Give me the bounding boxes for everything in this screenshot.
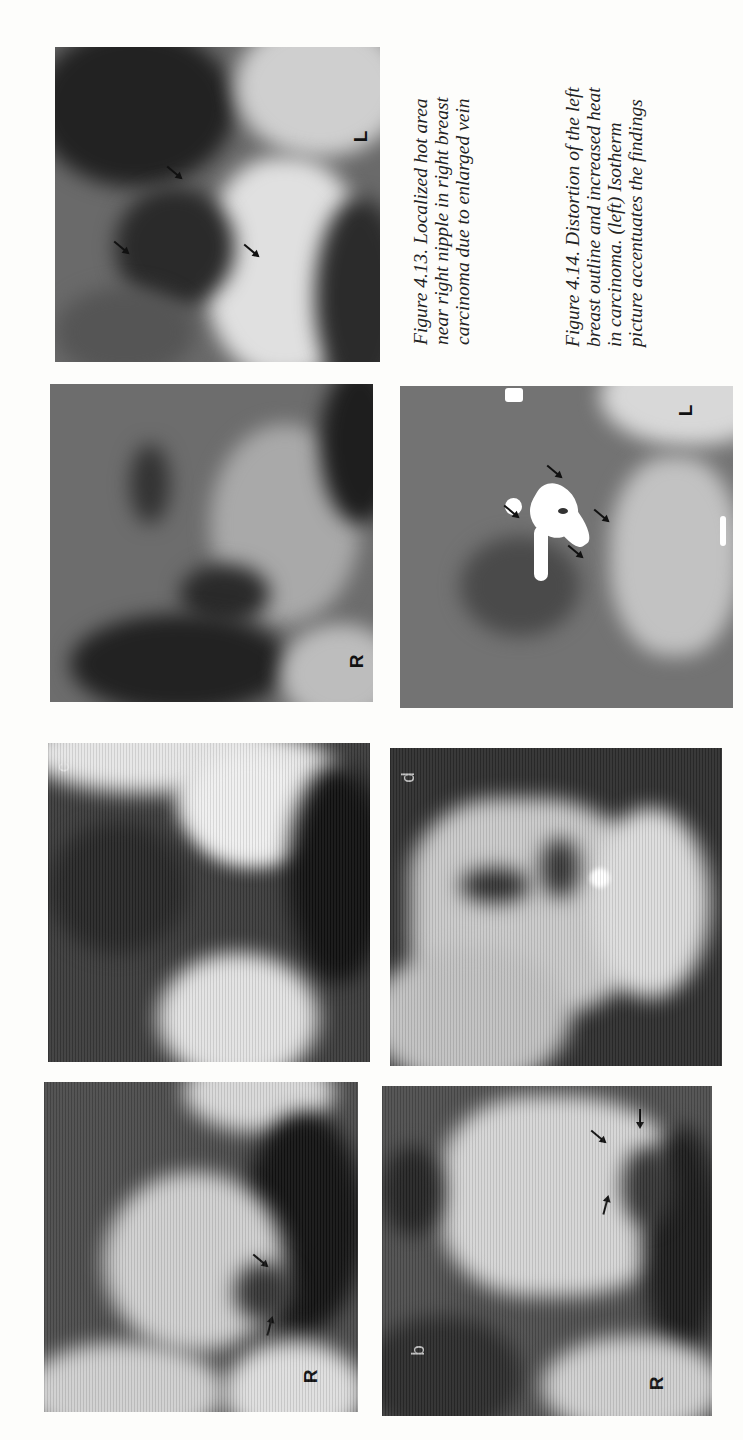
thermogram-panel-c: c: [48, 743, 370, 1062]
thermogram-panel-a: R: [44, 1082, 358, 1412]
caption-line: Figure 4.14. Distortion of the left: [562, 57, 583, 347]
caption-line: carcinoma due to enlarged vein: [452, 55, 473, 345]
thermogram-panel-b: b R: [382, 1086, 712, 1416]
caption-line: breast outline and increased heat: [583, 57, 604, 347]
caption-line: near right nipple in right breast: [431, 55, 452, 345]
side-marker-l: L: [351, 131, 370, 143]
arrow-icon: [594, 509, 609, 522]
arrow-icon: [266, 1318, 273, 1336]
arrow-icon: [313, 1230, 315, 1248]
arrow-icon: [639, 1109, 641, 1127]
thermogram-panel-d: d: [390, 748, 722, 1066]
panel-letter-d: d: [398, 772, 417, 783]
panel-letter-b: b: [408, 1345, 427, 1356]
caption-line: picture accentuates the findings: [625, 57, 646, 347]
caption-line: in carcinoma. (left) Isotherm: [604, 57, 625, 347]
figure-4-14-left-thermogram: R: [50, 384, 373, 702]
side-marker-r: R: [647, 1377, 666, 1391]
arrow-icon: [547, 465, 562, 478]
side-marker-r: R: [347, 655, 366, 669]
side-marker-l: L: [676, 405, 695, 417]
figure-4-13-caption: Figure 4.13. Localized hot area near rig…: [410, 55, 473, 345]
figure-4-13-thermogram: L: [55, 47, 380, 362]
side-marker-r: R: [301, 1370, 320, 1384]
figure-4-14-isotherm: L: [400, 386, 733, 708]
caption-line: Figure 4.13. Localized hot area: [410, 55, 431, 345]
figure-4-14-caption: Figure 4.14. Distortion of the left brea…: [562, 57, 646, 347]
panel-letter: c: [53, 763, 72, 773]
